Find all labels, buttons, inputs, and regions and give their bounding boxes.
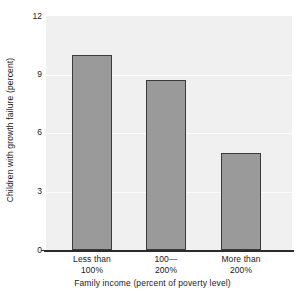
y-axis-title: Children with growth failure (percent) <box>2 5 18 255</box>
x-tick-line1: Less than <box>73 254 111 264</box>
x-axis-line <box>44 250 294 252</box>
y-tick-label-9: 9 <box>20 69 42 79</box>
plot-area <box>46 16 292 250</box>
x-tick-label-less-than-100: Less than 100% <box>50 254 134 276</box>
x-axis-title: Family income (percent of poverty level) <box>0 278 305 288</box>
x-tick-label-100-200: 100— 200% <box>124 254 208 276</box>
x-axis-tick-labels: Less than 100% 100— 200% More than 200% <box>46 254 292 280</box>
x-tick-label-more-than-200: More than 200% <box>199 254 283 276</box>
y-tick-label-6: 6 <box>20 127 42 137</box>
x-tick-line1: 100— <box>154 254 177 264</box>
x-tick-line2: 200% <box>199 265 283 276</box>
y-tick-label-0: 0 <box>20 245 42 255</box>
bar-more-than-200 <box>221 153 261 251</box>
y-tick-label-12: 12 <box>20 11 42 21</box>
bar-chart-figure: Children with growth failure (percent) 1… <box>0 0 305 293</box>
x-tick-line2: 100% <box>50 265 134 276</box>
bar-100-200 <box>146 80 186 250</box>
x-tick-line2: 200% <box>124 265 208 276</box>
y-axis-tick-labels: 12 9 6 3 0 <box>18 0 42 293</box>
bar-less-than-100 <box>72 55 112 250</box>
y-tick-label-3: 3 <box>20 186 42 196</box>
x-tick-line1: More than <box>221 254 260 264</box>
